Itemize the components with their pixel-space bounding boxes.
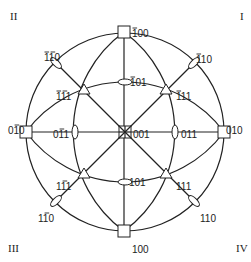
quadrant-label-II: II: [10, 10, 18, 22]
pole-100-symbol-icon: [118, 225, 130, 237]
pole-label-001: 001: [133, 129, 150, 140]
pole-label-1-11: 111: [56, 181, 72, 192]
pole-label-0-10: 010: [8, 125, 25, 136]
pole-001-symbol-icon: [119, 126, 131, 138]
pole-110-symbol-icon: [187, 194, 201, 208]
quadrant-label-IV: IV: [236, 242, 248, 254]
pole-label--111: 111: [176, 91, 192, 102]
pole-011-symbol-icon: [172, 125, 178, 139]
pole-1-10-symbol-icon: [49, 194, 63, 208]
pole--111-symbol-icon: [160, 84, 172, 94]
pole-label--110: 110: [196, 54, 212, 65]
pole-label-110: 110: [200, 213, 216, 224]
stereographic-projection: 0011001000100101011010110111111111111111…: [0, 0, 251, 262]
pole-label--100: 100: [132, 28, 149, 39]
pole-0-11-symbol-icon: [72, 125, 78, 139]
pole-label-0-11: 011: [53, 129, 69, 140]
pole-label-011: 011: [181, 129, 197, 140]
pole-label--1-11: 111: [56, 91, 72, 102]
pole-label-101: 101: [129, 177, 146, 188]
great-circle-arc-top: [26, 82, 224, 132]
quadrant-label-III: III: [8, 242, 19, 254]
pole-label-010: 010: [226, 125, 243, 136]
pole--1-11-symbol-icon: [78, 84, 90, 94]
pole-label--101: 101: [130, 77, 147, 88]
pole-label--1-10: 110: [44, 52, 60, 63]
quadrant-label-I: I: [240, 10, 244, 22]
pole-label-111: 111: [176, 181, 192, 192]
pole-label-1-10: 110: [38, 213, 54, 224]
pole-label-100: 100: [132, 244, 149, 255]
pole--100-symbol-icon: [118, 26, 130, 38]
